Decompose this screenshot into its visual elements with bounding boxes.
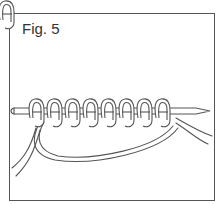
knitting-illustration [0,0,224,204]
yarn-tail-left [12,128,36,168]
